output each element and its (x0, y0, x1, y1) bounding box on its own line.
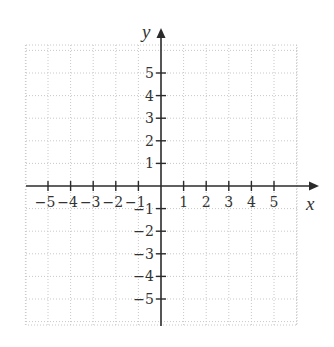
y-axis-arrow-icon (157, 28, 166, 38)
y-tick-label: 3 (145, 110, 154, 126)
y-tick-label: −1 (133, 201, 154, 217)
coordinate-plane: −5−4−3−2−11234554321−1−2−3−4−5 x y (0, 0, 334, 347)
y-tick-label: −5 (133, 291, 154, 307)
y-tick-label: 5 (145, 65, 154, 81)
x-tick-label: 3 (224, 194, 233, 210)
x-tick-label: −3 (80, 194, 101, 210)
x-tick-label: −4 (57, 194, 78, 210)
y-tick-label: −3 (133, 246, 154, 262)
x-tick-label: 1 (179, 194, 188, 210)
x-tick-label: 4 (247, 194, 256, 210)
y-axis-label: y (140, 21, 151, 42)
x-tick-label: −5 (35, 194, 56, 210)
x-tick-label: −2 (102, 194, 123, 210)
y-tick-label: 1 (145, 155, 154, 171)
x-tick-label: 5 (270, 194, 279, 210)
x-axis-arrow-icon (309, 182, 319, 191)
x-tick-label: 2 (202, 194, 211, 210)
y-tick-label: −2 (133, 223, 154, 239)
y-tick-label: 4 (145, 88, 154, 104)
x-axis-label: x (305, 193, 315, 214)
y-tick-label: −4 (133, 268, 154, 284)
y-tick-label: 2 (145, 133, 154, 149)
